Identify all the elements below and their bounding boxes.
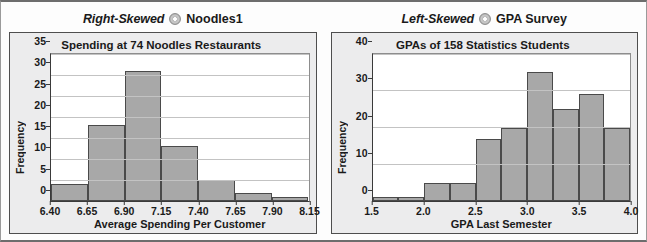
x-tick: 3.0 — [520, 205, 535, 217]
y-tick: 30 — [34, 56, 46, 68]
x-tick: 7.90 — [262, 205, 282, 217]
histogram-bar — [125, 71, 162, 201]
x-tick-labels-right: 1.52.02.53.03.54.0 — [372, 202, 632, 217]
panels-container: Right-Skewed Noodles1 Spending at 74 Noo… — [1, 2, 646, 240]
histogram-bar — [450, 183, 476, 201]
histogram-bar — [398, 197, 424, 201]
gridline — [373, 90, 631, 91]
y-tick: 10 — [34, 141, 46, 153]
gridline — [51, 159, 309, 160]
x-tick: 4.0 — [624, 205, 639, 217]
y-tick: 30 — [356, 72, 368, 84]
plot-right — [372, 53, 632, 202]
histogram-bar — [272, 197, 309, 201]
x-tick: 3.5 — [572, 205, 587, 217]
histogram-bar — [424, 183, 450, 201]
y-tick: 0 — [362, 184, 368, 196]
y-tick: 40 — [356, 35, 368, 47]
plot-left — [50, 53, 310, 202]
panel-right-skewed: Right-Skewed Noodles1 Spending at 74 Noo… — [9, 6, 317, 234]
y-tick-labels-right: 010203040 — [350, 53, 372, 202]
plot-area-right: Frequency 010203040 1.52.02.53.03.54.0 G… — [335, 53, 632, 230]
x-tick: 6.90 — [114, 205, 134, 217]
x-tick: 2.5 — [468, 205, 483, 217]
x-tick: 1.5 — [364, 205, 379, 217]
gridline — [51, 117, 309, 118]
y-tick: 20 — [356, 110, 368, 122]
skew-label: Right-Skewed — [83, 12, 164, 26]
panel-left-skewed: Left-Skewed GPA Survey GPAs of 158 Stati… — [331, 6, 639, 234]
chart-title: GPAs of 158 Statistics Students — [335, 36, 632, 53]
gridline — [373, 127, 631, 128]
chart-title: Spending at 74 Noodles Restaurants — [13, 36, 310, 53]
panel-header-right: Left-Skewed GPA Survey — [331, 6, 639, 32]
y-tick: 25 — [34, 78, 46, 90]
x-tick-labels-left: 6.406.656.907.157.407.657.908.15 — [50, 202, 310, 217]
y-tick-labels-left: 05101520253035 — [28, 53, 50, 202]
x-tick: 6.65 — [77, 205, 97, 217]
chart-box-left: Spending at 74 Noodles Restaurants Frequ… — [9, 32, 317, 234]
x-tick: 7.15 — [151, 205, 171, 217]
x-tick: 8.15 — [299, 205, 319, 217]
x-tick: 2.0 — [416, 205, 431, 217]
histogram-bar — [553, 109, 579, 201]
histogram-bar — [476, 139, 502, 201]
histogram-bar — [373, 197, 399, 201]
y-tick: 35 — [34, 35, 46, 47]
axis-and-plot-right: 010203040 1.52.02.53.03.54.0 GPA Last Se… — [350, 53, 632, 230]
histogram-bar — [527, 72, 553, 201]
histogram-bar — [51, 184, 88, 201]
histogram-bar — [235, 193, 272, 201]
gridline — [51, 138, 309, 139]
histogram-bar — [579, 94, 605, 201]
y-tick: 5 — [40, 163, 46, 175]
plot-area-left: Frequency 05101520253035 6.406.656.907.1… — [13, 53, 310, 230]
gridline — [51, 180, 309, 181]
disc-icon — [479, 13, 491, 25]
dataset-label: GPA Survey — [496, 12, 567, 26]
y-axis-label: Frequency — [335, 53, 350, 230]
chart-box-right: GPAs of 158 Statistics Students Frequenc… — [331, 32, 639, 234]
x-tick: 7.40 — [188, 205, 208, 217]
x-tick: 7.65 — [225, 205, 245, 217]
dataset-label: Noodles1 — [186, 12, 242, 26]
disc-icon — [169, 13, 181, 25]
skew-label: Left-Skewed — [402, 12, 475, 26]
gridline — [51, 54, 309, 55]
x-axis-label: Average Spending Per Customer — [50, 217, 310, 230]
x-tick: 6.40 — [40, 205, 60, 217]
gridline — [51, 96, 309, 97]
x-axis-label: GPA Last Semester — [372, 217, 632, 230]
panel-header-left: Right-Skewed Noodles1 — [9, 6, 317, 32]
gridline — [373, 54, 631, 55]
axis-and-plot-left: 05101520253035 6.406.656.907.157.407.657… — [28, 53, 310, 230]
y-tick: 15 — [34, 120, 46, 132]
gridline — [373, 164, 631, 165]
y-tick: 10 — [356, 147, 368, 159]
y-tick: 0 — [40, 184, 46, 196]
gridline — [51, 75, 309, 76]
figure-page: Right-Skewed Noodles1 Spending at 74 Noo… — [0, 0, 647, 242]
histogram-bar — [198, 180, 235, 201]
y-axis-label: Frequency — [13, 53, 28, 230]
histogram-bar — [161, 146, 198, 201]
y-tick: 20 — [34, 99, 46, 111]
